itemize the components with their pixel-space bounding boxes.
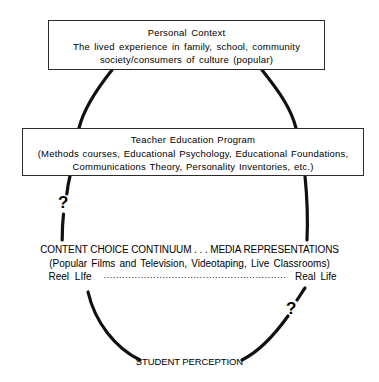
- teacher-education-line-2: (Methods courses, Educational Psychology…: [23, 147, 363, 161]
- question-mark-left: ?: [58, 194, 68, 211]
- arc-right-middle: [305, 176, 307, 240]
- reel-real-row: Reel LIfe Real Life ....................…: [0, 270, 379, 284]
- arc-top-right: [262, 70, 296, 128]
- reel-real-inner: Reel LIfe Real Life ....................…: [49, 270, 337, 284]
- teacher-education-line-1: Teacher Education Program: [23, 133, 363, 147]
- arc-right-lower-stub: [297, 288, 305, 300]
- teacher-education-program-box: Teacher Education Program (Methods cours…: [22, 128, 364, 176]
- continuum-subtitle: (Popular Films and Television, Videotapi…: [0, 257, 379, 271]
- cycle-diagram: Personal Context The lived experience in…: [0, 0, 379, 382]
- question-mark-right: ?: [286, 300, 296, 317]
- continuum-title: CONTENT CHOICE CONTINUUM . . . MEDIA REP…: [0, 243, 379, 257]
- student-perception-label: STUDENT PERCEPTION: [0, 356, 379, 368]
- arc-bottom-left: [88, 292, 140, 360]
- personal-context-line-3: society/consumers of culture (popular): [49, 53, 324, 67]
- content-choice-continuum: CONTENT CHOICE CONTINUUM . . . MEDIA REP…: [0, 243, 379, 284]
- personal-context-line-2: The lived experience in family, school, …: [49, 40, 324, 54]
- real-life-label: Real Life: [295, 270, 336, 284]
- continuum-leader-dots: ........................................…: [104, 269, 289, 283]
- arc-top-left: [79, 70, 112, 128]
- arc-left-lower-stub: [62, 214, 63, 240]
- arc-bottom-right: [242, 316, 288, 360]
- teacher-education-line-3: Communications Theory, Personality Inven…: [23, 160, 363, 174]
- personal-context-line-1: Personal Context: [49, 26, 324, 40]
- personal-context-box: Personal Context The lived experience in…: [48, 20, 325, 70]
- arc-left-upper-stub: [67, 176, 70, 194]
- reel-life-label: Reel LIfe: [49, 271, 92, 282]
